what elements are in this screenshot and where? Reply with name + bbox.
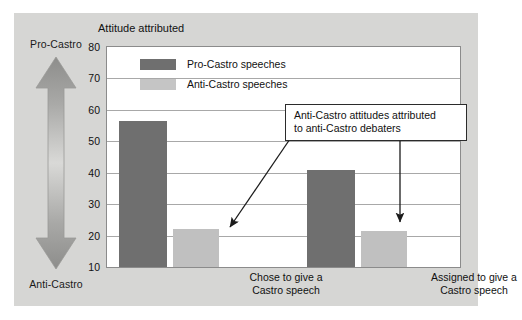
y-axis-tick-label: 30 bbox=[88, 198, 100, 210]
y-axis-tick-label: 10 bbox=[88, 261, 100, 273]
arrow-label-anti-castro: Anti-Castro bbox=[20, 278, 92, 290]
legend-item-1: Anti-Castro speeches bbox=[140, 76, 287, 92]
category-label-line: Castro speech bbox=[404, 284, 522, 297]
annotation-line-0: Anti-Castro attitudes attributed bbox=[294, 109, 459, 122]
y-axis-tick-label: 20 bbox=[88, 230, 100, 242]
attitude-scale-arrow-group: Pro-Castro Anti-Castro bbox=[20, 38, 92, 290]
bar-anti-castro-group-0 bbox=[173, 229, 219, 267]
bar-pro-castro-group-1 bbox=[307, 170, 355, 267]
category-label-line: Chose to give a bbox=[216, 271, 356, 284]
arrow-label-pro-castro: Pro-Castro bbox=[20, 38, 92, 50]
legend-item-0: Pro-Castro speeches bbox=[140, 56, 287, 72]
y-axis-tick-label: 60 bbox=[88, 104, 100, 116]
bar-pro-castro-group-0 bbox=[119, 121, 167, 267]
chart-legend: Pro-Castro speeches Anti-Castro speeches bbox=[140, 56, 287, 96]
legend-label-anti-castro: Anti-Castro speeches bbox=[187, 78, 287, 90]
y-axis-tick-label: 70 bbox=[88, 72, 100, 84]
x-axis-category-label-0: Chose to give aCastro speech bbox=[216, 271, 356, 296]
legend-swatch-pro-castro bbox=[140, 59, 176, 70]
legend-swatch-anti-castro bbox=[140, 79, 176, 90]
category-label-line: Assigned to give a bbox=[404, 271, 522, 284]
bar-anti-castro-group-1 bbox=[361, 231, 407, 267]
x-axis-category-label-1: Assigned to give aCastro speech bbox=[404, 271, 522, 296]
annotation-callout-box: Anti-Castro attitudes attributed to anti… bbox=[285, 104, 467, 141]
chart-title: Attitude attributed bbox=[98, 22, 184, 34]
y-axis-tick-label: 40 bbox=[88, 167, 100, 179]
double-headed-arrow-icon bbox=[35, 57, 77, 269]
y-axis-tick-label: 80 bbox=[88, 41, 100, 53]
category-label-line: Castro speech bbox=[216, 284, 356, 297]
annotation-line-1: to anti-Castro debaters bbox=[294, 122, 459, 135]
legend-label-pro-castro: Pro-Castro speeches bbox=[187, 58, 286, 70]
y-axis-tick-label: 50 bbox=[88, 135, 100, 147]
